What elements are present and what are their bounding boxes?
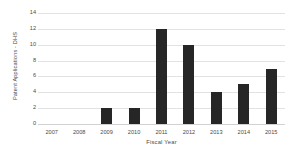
x-axis-tick-labels: 200720082009201020112012201320142015 bbox=[38, 127, 285, 137]
bar[interactable] bbox=[129, 108, 140, 124]
bar-slot bbox=[203, 13, 230, 124]
bars-layer bbox=[38, 13, 285, 124]
y-axis-tick-label: 4 bbox=[22, 89, 36, 95]
y-axis-tick-label: 8 bbox=[22, 58, 36, 64]
bar[interactable] bbox=[156, 29, 167, 124]
x-axis-tick-label: 2007 bbox=[38, 127, 65, 137]
x-axis-tick-label: 2012 bbox=[175, 127, 202, 137]
bar-slot bbox=[65, 13, 92, 124]
bar-chart: Patent Applications - DHS 02468101214 20… bbox=[0, 0, 293, 160]
plot-area bbox=[38, 13, 285, 124]
x-axis-tick-label: 2014 bbox=[230, 127, 257, 137]
y-axis-tick-label: 2 bbox=[22, 105, 36, 111]
bar-slot bbox=[93, 13, 120, 124]
axis-baseline bbox=[38, 124, 285, 125]
x-axis-tick-label: 2015 bbox=[258, 127, 285, 137]
bar-slot bbox=[148, 13, 175, 124]
y-axis-tick-label: 0 bbox=[22, 121, 36, 127]
bar-slot bbox=[230, 13, 257, 124]
bar-slot bbox=[38, 13, 65, 124]
bar[interactable] bbox=[183, 45, 194, 124]
x-axis-tick-label: 2009 bbox=[93, 127, 120, 137]
bar-slot bbox=[175, 13, 202, 124]
y-axis-tick-label: 12 bbox=[22, 26, 36, 32]
y-axis-tick-label: 6 bbox=[22, 74, 36, 80]
bar[interactable] bbox=[211, 92, 222, 124]
x-axis-title: Fiscal Year bbox=[38, 139, 285, 145]
bar-slot bbox=[258, 13, 285, 124]
bar[interactable] bbox=[238, 84, 249, 124]
bar-slot bbox=[120, 13, 147, 124]
y-axis-tick-label: 14 bbox=[22, 10, 36, 16]
y-axis-title: Patent Applications - DHS bbox=[8, 4, 22, 128]
x-axis-tick-label: 2011 bbox=[148, 127, 175, 137]
x-axis-tick-label: 2013 bbox=[203, 127, 230, 137]
y-axis-tick-labels: 02468101214 bbox=[22, 13, 36, 124]
bar[interactable] bbox=[101, 108, 112, 124]
x-axis-tick-label: 2010 bbox=[120, 127, 147, 137]
y-axis-tick-label: 10 bbox=[22, 42, 36, 48]
x-axis-tick-label: 2008 bbox=[65, 127, 92, 137]
bar[interactable] bbox=[266, 69, 277, 125]
